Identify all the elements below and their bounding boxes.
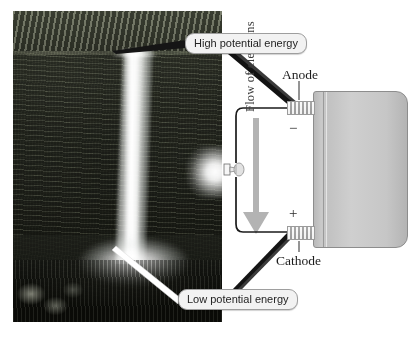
anode-label: Anode bbox=[282, 67, 318, 83]
low-potential-energy-callout: Low potential energy bbox=[178, 289, 298, 310]
battery bbox=[313, 91, 408, 248]
high-potential-energy-callout: High potential energy bbox=[185, 33, 307, 54]
flow-of-electrons-label: Flow of electrons bbox=[243, 8, 257, 112]
electron-flow-arrow bbox=[243, 118, 269, 234]
minus-sign: − bbox=[289, 121, 297, 136]
light-bulb-icon bbox=[224, 163, 244, 176]
plus-sign: + bbox=[289, 206, 297, 221]
battery-highlight-line bbox=[326, 92, 327, 247]
cathode-terminal bbox=[287, 226, 315, 240]
cathode-label: Cathode bbox=[276, 253, 321, 269]
anode-terminal bbox=[287, 101, 315, 115]
battery-seam-line bbox=[323, 92, 324, 247]
figure-canvas: − + Anode Cathode Flow of electrons High… bbox=[0, 0, 419, 338]
